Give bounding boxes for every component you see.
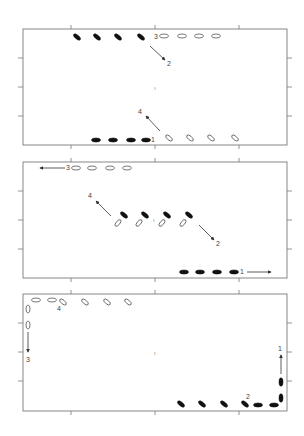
label-2: 2 — [216, 240, 220, 247]
center-mark: ı — [153, 217, 155, 223]
label-4: 4 — [57, 305, 61, 312]
label-2: 2 — [167, 60, 171, 67]
label-4: 4 — [88, 192, 92, 199]
filled-ellipse-train — [180, 270, 239, 274]
label-3: 3 — [154, 33, 158, 40]
label-1: 1 — [278, 345, 282, 352]
filled-ellipse-train — [120, 211, 194, 219]
center-mark: ı — [154, 85, 156, 91]
filled-ellipse-train — [177, 378, 283, 408]
axis-ticks — [18, 158, 292, 282]
panel-frame — [23, 162, 287, 278]
label-4: 4 — [138, 108, 142, 115]
open-ellipse-train — [165, 134, 240, 142]
filled-ellipse-train — [73, 33, 146, 41]
arrow-4 — [146, 116, 160, 131]
arrow-4 — [96, 201, 111, 216]
label-3: 3 — [66, 164, 70, 171]
open-ellipse-train — [160, 34, 221, 38]
center-mark: ı — [154, 350, 156, 356]
panel-middle: 3 4 ı 2 1 — [18, 158, 292, 282]
label-1: 1 — [151, 136, 155, 143]
arrow-2 — [150, 46, 165, 60]
open-ellipse-train — [72, 166, 132, 170]
trajectory-diagram: 3 2 ı 4 1 — [0, 0, 304, 436]
filled-ellipse-train — [92, 138, 151, 142]
label-2: 2 — [246, 393, 250, 400]
label-1: 1 — [240, 268, 244, 275]
open-ellipse-train — [114, 219, 187, 228]
panel-bottom: 4 3 ı 2 1 — [18, 290, 292, 415]
label-3: 3 — [26, 356, 30, 363]
arrow-2 — [199, 225, 214, 240]
panel-top: 3 2 ı 4 1 — [18, 25, 292, 149]
open-ellipse-train — [32, 298, 133, 306]
open-ellipse-train — [26, 305, 30, 329]
